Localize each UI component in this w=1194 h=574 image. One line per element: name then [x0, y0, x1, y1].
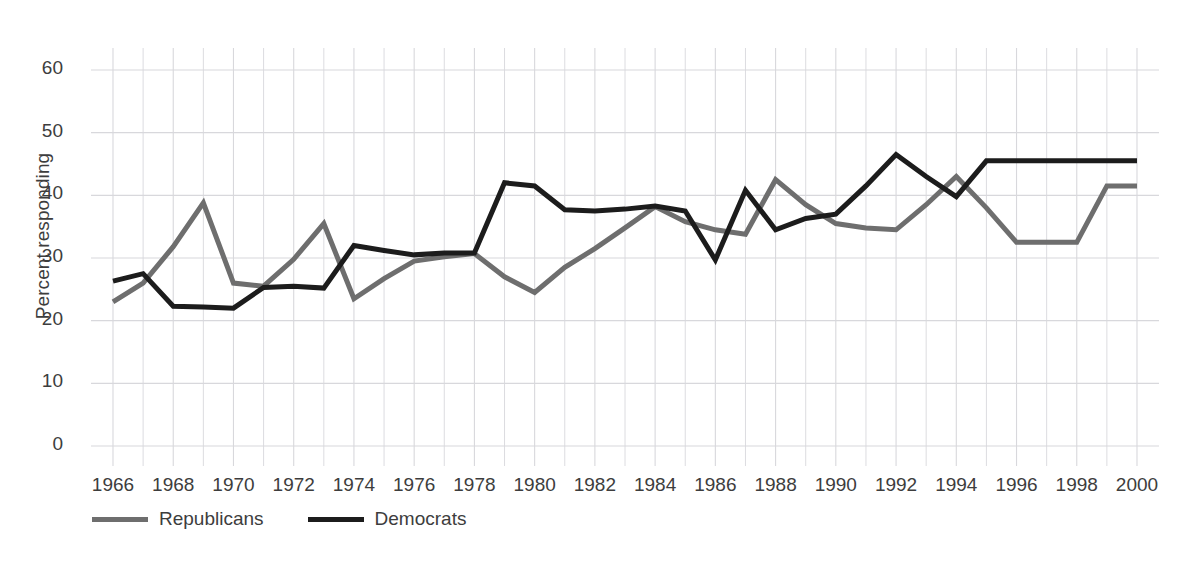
x-tick-label: 1976	[384, 474, 444, 496]
x-tick-label: 1988	[746, 474, 806, 496]
x-tick-label: 1978	[444, 474, 504, 496]
y-tick-label: 20	[3, 308, 63, 330]
y-tick-label: 30	[3, 245, 63, 267]
x-tick-label: 1972	[264, 474, 324, 496]
x-tick-label: 1996	[987, 474, 1047, 496]
x-tick-label: 1974	[324, 474, 384, 496]
x-tick-label: 1980	[505, 474, 565, 496]
x-tick-label: 1966	[83, 474, 143, 496]
x-tick-label: 1990	[806, 474, 866, 496]
x-tick-label: 1968	[143, 474, 203, 496]
y-tick-label: 50	[3, 120, 63, 142]
legend-label: Republicans	[159, 508, 264, 530]
legend-item-republicans[interactable]: Republicans	[92, 508, 264, 530]
x-tick-label: 1982	[565, 474, 625, 496]
grid-lines	[91, 48, 1159, 466]
chart-legend: RepublicansDemocrats	[92, 508, 466, 530]
y-tick-label: 40	[3, 182, 63, 204]
legend-item-democrats[interactable]: Democrats	[308, 508, 467, 530]
chart-figure: Percent responding 0102030405060 1966196…	[0, 0, 1194, 574]
y-tick-label: 10	[3, 370, 63, 392]
legend-label: Democrats	[375, 508, 467, 530]
y-tick-label: 0	[3, 433, 63, 455]
x-tick-label: 1992	[866, 474, 926, 496]
legend-swatch-icon	[308, 517, 364, 522]
legend-swatch-icon	[92, 517, 148, 522]
x-tick-label: 1998	[1047, 474, 1107, 496]
x-tick-label: 2000	[1107, 474, 1167, 496]
x-tick-label: 1994	[926, 474, 986, 496]
y-tick-label: 60	[3, 57, 63, 79]
x-tick-label: 1986	[685, 474, 745, 496]
x-tick-label: 1970	[203, 474, 263, 496]
x-tick-label: 1984	[625, 474, 685, 496]
